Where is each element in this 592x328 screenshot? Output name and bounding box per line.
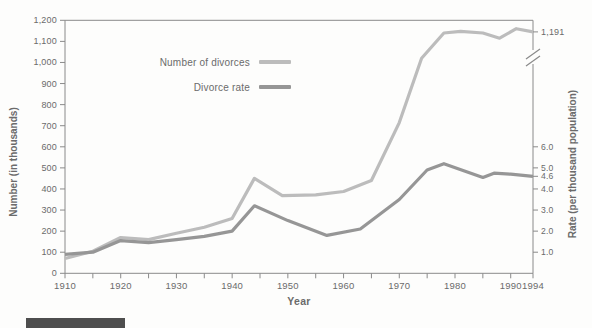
left-axis-tick-label: 300: [41, 205, 57, 215]
left-axis-tick-label: 400: [41, 184, 57, 194]
divorce-rate-line: [65, 164, 533, 255]
divorce-rate-line-swatch: [259, 85, 291, 89]
x-axis-tick-label: 1950: [277, 280, 299, 291]
right-axis-title: Rate (per thousand population): [567, 90, 578, 238]
left-axis-tick-label: 1,100: [33, 36, 57, 46]
x-axis-title: Year: [287, 295, 310, 307]
left-axis-tick-label: 1,200: [33, 15, 57, 25]
left-axis-tick-label: 0: [52, 268, 57, 278]
left-axis-tick-label: 800: [41, 100, 57, 110]
x-axis-tick-label: 1980: [444, 280, 466, 291]
x-axis-tick-label: 1920: [110, 280, 132, 291]
left-axis-tick-label: 900: [41, 79, 57, 89]
right-axis-tick-label: 3.0: [541, 205, 554, 215]
x-axis-tick-label: 1910: [54, 280, 76, 291]
right-axis-tick-label: 5.0: [541, 163, 554, 173]
x-axis-tick-label: 1940: [221, 280, 243, 291]
x-axis-tick-label: 1994: [522, 280, 544, 291]
x-axis-tick-label: 1960: [333, 280, 355, 291]
x-axis-tick-label: 1970: [388, 280, 410, 291]
divorce-chart-figure: 01002003004005006007008009001,0001,1001,…: [0, 0, 592, 328]
line-chart-canvas: 01002003004005006007008009001,0001,1001,…: [0, 0, 592, 328]
number-of-divorces-line-swatch: [259, 60, 291, 64]
x-axis-tick-label: 1930: [165, 280, 187, 291]
x-axis-tick-label: 1990: [500, 280, 522, 291]
legend-label-divorce-rate: Divorce rate: [116, 82, 250, 93]
left-axis-title: Number (in thousands): [8, 107, 19, 216]
legend-item-divorce-rate: Divorce rate: [116, 80, 291, 94]
right-axis-tick-label: 2.0: [541, 226, 554, 236]
legend-label-number-of-divorces: Number of divorces: [116, 57, 250, 68]
right-axis-tick-label: 1.0: [541, 247, 554, 257]
right-axis-tick-label: 4.0: [541, 184, 554, 194]
left-axis-tick-label: 1,000: [33, 57, 57, 67]
left-axis-tick-label: 700: [41, 121, 57, 131]
left-axis-tick-label: 600: [41, 142, 57, 152]
legend: Number of divorces Divorce rate: [116, 55, 291, 105]
legend-item-number-of-divorces: Number of divorces: [116, 55, 291, 69]
left-axis-tick-label: 200: [41, 226, 57, 236]
end-value-label: 1,191: [541, 27, 565, 37]
footer-caption-box: [26, 318, 125, 328]
left-axis-tick-label: 100: [41, 247, 57, 257]
left-axis-tick-label: 500: [41, 163, 57, 173]
right-axis-tick-label: 6.0: [541, 142, 554, 152]
